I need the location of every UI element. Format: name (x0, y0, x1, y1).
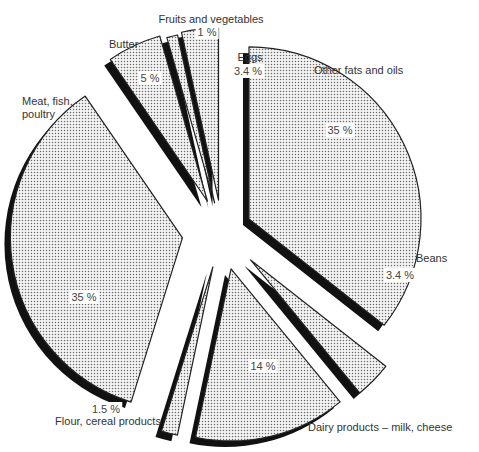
value-label-eggs: 3.4 % (234, 65, 262, 77)
value-label-flour-cereal-products: 1.5 % (92, 403, 120, 415)
value-label-meat-fish-poultry: 35 % (71, 291, 96, 303)
label-butter: Butter (109, 38, 139, 50)
label-meat-fish-poultry: Meat, fish, (22, 95, 73, 107)
label-fruits-and-vegetables: Fruits and vegetables (158, 13, 264, 25)
exploded-pie-chart: Other fats and oils35 %Beans3.4 %Dairy p… (0, 0, 479, 452)
label-flour-cereal-products: Flour, cereal products (55, 415, 161, 427)
value-label-butter: 5 % (141, 72, 160, 84)
label-dairy-products: Dairy products – milk, cheese (308, 421, 452, 433)
label-beans: Beans (416, 252, 448, 264)
value-label-beans: 3.4 % (386, 269, 414, 281)
label-other-fats-and-oils: Other fats and oils (314, 64, 404, 76)
value-label-dairy-products: 14 % (250, 360, 275, 372)
slice-meat-fish-poultry (10, 96, 182, 402)
label-meat-fish-poultry: poultry (22, 108, 56, 120)
value-label-fruits-and-vegetables: 1 % (198, 26, 217, 38)
value-label-other-fats-and-oils: 35 % (327, 124, 352, 136)
label-eggs: Eggs (237, 51, 263, 63)
